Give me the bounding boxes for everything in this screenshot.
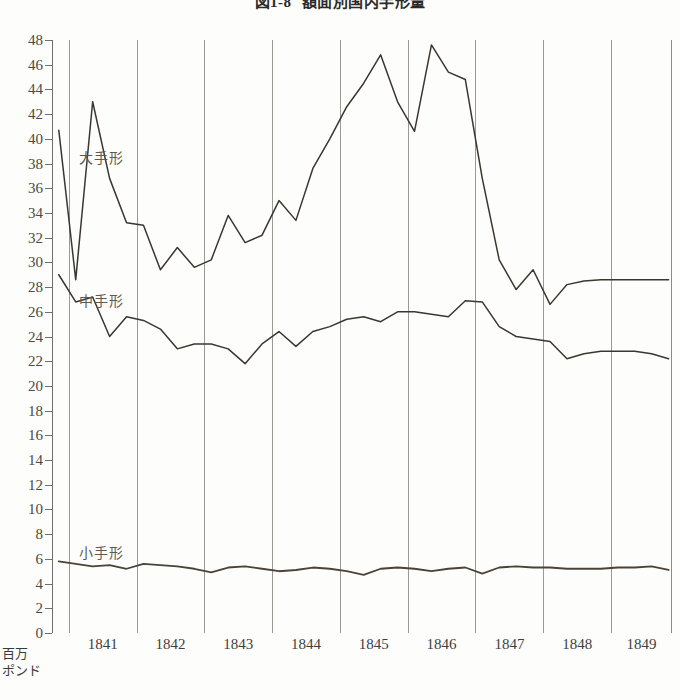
y-axis-tick-label: 28	[28, 280, 43, 295]
y-axis-tick	[45, 460, 52, 461]
y-axis-tick-label: 8	[36, 527, 44, 542]
unit-line-1: 百万	[2, 645, 41, 662]
y-axis-tick	[45, 89, 52, 90]
figure-title: 図1-8額面別国内手形量	[0, 0, 680, 11]
y-axis-tick	[45, 40, 52, 41]
y-axis-tick-label: 6	[36, 551, 44, 566]
y-axis-tick-label: 10	[28, 502, 43, 517]
y-axis-tick	[45, 584, 52, 585]
y-axis-tick-label: 2	[36, 601, 44, 616]
y-axis-tick	[45, 608, 52, 609]
y-axis-tick	[45, 65, 52, 66]
y-axis-tick	[45, 411, 52, 412]
y-axis-tick-label: 4	[36, 576, 44, 591]
y-axis-tick-label: 40	[28, 131, 43, 146]
y-axis-tick	[45, 312, 52, 313]
y-axis-tick-label: 42	[28, 107, 43, 122]
y-axis-tick	[45, 262, 52, 263]
y-axis-tick	[45, 435, 52, 436]
y-axis-tick-label: 34	[28, 205, 43, 220]
y-axis-tick-label: 32	[28, 230, 43, 245]
y-axis-tick-label: 48	[28, 33, 43, 48]
y-axis-tick-label: 24	[28, 329, 43, 344]
x-axis-tick-label: 1841	[88, 636, 118, 653]
y-axis-tick	[45, 509, 52, 510]
y-axis-tick-label: 38	[28, 156, 43, 171]
series-line-中手形	[59, 275, 669, 364]
series-label-大手形: 大手形	[79, 147, 124, 167]
y-axis-tick-label: 22	[28, 354, 43, 369]
x-axis-tick-label: 1842	[156, 636, 186, 653]
y-axis-tick	[45, 337, 52, 338]
y-axis-tick	[45, 213, 52, 214]
axis-unit-label: 百万 ポンド	[2, 645, 41, 679]
y-axis-tick	[45, 238, 52, 239]
y-axis-tick-label: 20	[28, 378, 43, 393]
figure-title-number: 図1-8	[255, 0, 292, 10]
series-line-小手形	[59, 561, 669, 575]
y-axis-tick-label: 46	[28, 57, 43, 72]
y-axis-tick	[45, 485, 52, 486]
x-axis-tick-label: 1846	[427, 636, 457, 653]
y-axis-tick	[45, 386, 52, 387]
y-axis-tick-label: 18	[28, 403, 43, 418]
y-axis-tick-label: 12	[28, 477, 43, 492]
y-axis-tick-label: 30	[28, 255, 43, 270]
x-axis-tick-label: 1848	[562, 636, 592, 653]
x-axis-tick-label: 1844	[291, 636, 321, 653]
y-axis-tick	[45, 114, 52, 115]
y-axis-tick-label: 14	[28, 453, 43, 468]
x-axis-tick-label: 1847	[494, 636, 524, 653]
y-axis-tick-label: 26	[28, 304, 43, 319]
y-axis-tick-label: 16	[28, 428, 43, 443]
y-axis-tick	[45, 534, 52, 535]
y-axis-tick-label: 36	[28, 181, 43, 196]
y-axis-tick-label: 44	[28, 82, 43, 97]
y-axis-tick-label: 0	[36, 626, 44, 641]
y-axis-tick	[45, 188, 52, 189]
series-label-小手形: 小手形	[79, 542, 124, 562]
chart-figure: 図1-8額面別国内手形量 024681012141618202224262830…	[0, 0, 680, 700]
y-axis-tick	[45, 164, 52, 165]
x-axis-tick-label: 1843	[223, 636, 253, 653]
series-line-大手形	[59, 45, 669, 304]
figure-title-text: 額面別国内手形量	[302, 0, 426, 10]
plot-area: 0246810121416182022242628303234363840424…	[52, 40, 672, 633]
y-axis-tick	[45, 361, 52, 362]
y-axis-tick	[45, 287, 52, 288]
x-axis-tick-label: 1845	[359, 636, 389, 653]
unit-line-2: ポンド	[2, 662, 41, 679]
series-label-中手形: 中手形	[79, 290, 124, 310]
y-axis-tick	[45, 559, 52, 560]
series-lines	[52, 40, 672, 633]
x-axis-tick-label: 1849	[627, 636, 657, 653]
y-axis-tick	[45, 633, 52, 634]
y-axis-tick	[45, 139, 52, 140]
